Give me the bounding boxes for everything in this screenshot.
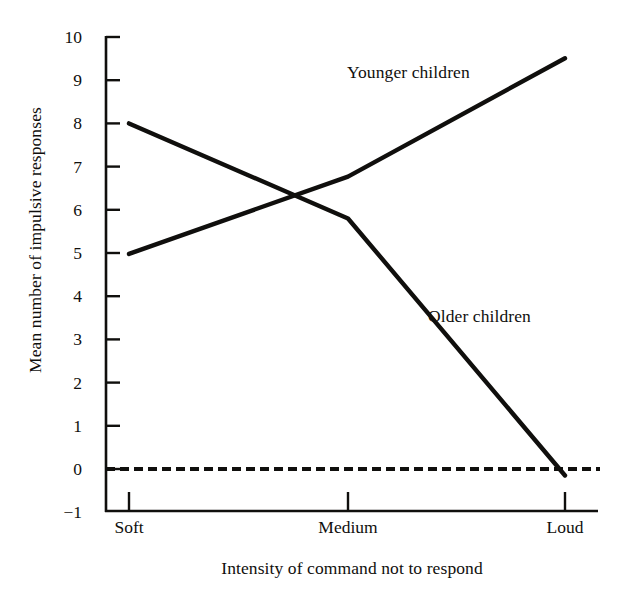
series-line-younger-children	[129, 58, 565, 254]
y-tick-label-2: 2	[42, 375, 82, 393]
y-tick-label-5: 5	[42, 245, 82, 263]
y-tick-label-10: 10	[42, 29, 82, 47]
x-tick-label-medium: Medium	[288, 519, 408, 537]
y-tick-label-8: 8	[42, 115, 82, 133]
line-chart-figure: 10 9 8 7 6 5 4 3 2 1 0 −1 Soft Medium Lo…	[0, 0, 631, 606]
y-tick-label-4: 4	[42, 288, 82, 306]
x-axis-title: Intensity of command not to respond	[106, 558, 598, 579]
y-tick-label-1: 1	[42, 418, 82, 436]
x-tick-label-loud: Loud	[505, 519, 625, 537]
series-annotation-older-children: Older children	[428, 308, 531, 326]
y-tick-label-3: 3	[42, 331, 82, 349]
chart-plot-area	[0, 0, 631, 606]
x-axis-ticks	[129, 492, 565, 511]
y-tick-label-6: 6	[42, 202, 82, 220]
y-tick-label-7: 7	[42, 159, 82, 177]
y-tick-label-0: 0	[42, 461, 82, 479]
x-tick-label-soft: Soft	[69, 519, 189, 537]
series-annotation-younger-children: Younger children	[347, 64, 470, 82]
y-axis-ticks	[106, 37, 120, 469]
y-tick-label-9: 9	[42, 72, 82, 90]
y-axis-title: Mean number of impulsive responses	[22, 0, 48, 480]
